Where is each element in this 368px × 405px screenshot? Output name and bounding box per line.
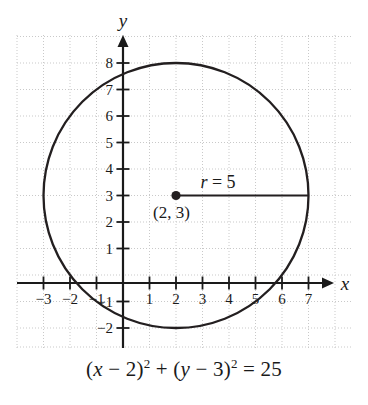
- caption-y-variable: y: [181, 357, 191, 381]
- caption-minus-three: − 3): [190, 357, 231, 381]
- center-point-label: (2, 3): [153, 203, 190, 222]
- caption-exponent-b: 2: [231, 356, 238, 371]
- radius-label-value: = 5: [207, 172, 235, 192]
- caption-minus-two: − 2): [103, 357, 144, 381]
- x-tick-label: 4: [225, 291, 233, 307]
- center-point-marker: [171, 191, 180, 200]
- x-tick-label: 6: [278, 291, 286, 307]
- y-tick-label: −2: [97, 320, 113, 336]
- caption-plus: + (: [150, 357, 180, 381]
- y-tick-label: 8: [106, 55, 114, 71]
- x-axis-label: x: [340, 273, 350, 294]
- x-tick-label: 3: [199, 291, 207, 307]
- x-tick-label: −2: [62, 291, 78, 307]
- x-tick-label: 7: [305, 291, 313, 307]
- y-tick-label: 5: [106, 135, 114, 151]
- x-tick-label: 5: [252, 291, 260, 307]
- y-tick-label: 4: [106, 161, 114, 177]
- x-tick-label: 2: [172, 291, 180, 307]
- y-tick-label: 1: [106, 241, 114, 257]
- circle-graph-figure: −3 −2 −1 1 2 3 4 5 6 7 −2 −1 1 2 3 4 5 6…: [0, 0, 368, 405]
- y-tick-label: −1: [97, 294, 113, 310]
- caption-x-variable: x: [93, 357, 103, 381]
- x-tick-label: 1: [146, 291, 154, 307]
- y-tick-label: 7: [106, 82, 114, 98]
- coordinate-plane: −3 −2 −1 1 2 3 4 5 6 7 −2 −1 1 2 3 4 5 6…: [0, 0, 368, 405]
- caption-equals-value: = 25: [238, 357, 282, 381]
- x-tick-label: −3: [36, 291, 52, 307]
- y-tick-label: 3: [106, 188, 114, 204]
- y-tick-label: 6: [106, 108, 114, 124]
- equation-caption: (x − 2)2 + (y − 3)2 = 25: [0, 356, 368, 382]
- radius-label: r = 5: [200, 172, 235, 192]
- y-axis-label: y: [117, 10, 128, 31]
- y-tick-label: 2: [106, 214, 114, 230]
